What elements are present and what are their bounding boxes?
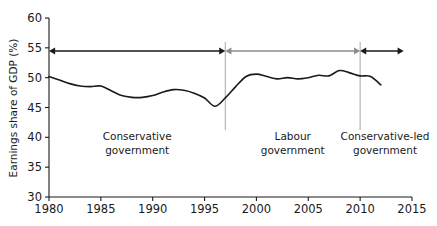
- period-label-line2: government: [353, 144, 417, 156]
- x-tick-label: 2015: [397, 202, 426, 216]
- line-chart: Earnings share of GDP (%) 30354045505560…: [0, 0, 437, 226]
- x-tick-label: 2010: [346, 202, 375, 216]
- period-arrow-head-right: [398, 48, 404, 55]
- y-tick-label: 40: [27, 130, 42, 144]
- x-tick-label: 1995: [190, 202, 219, 216]
- period-arrow-head-left: [225, 48, 231, 55]
- y-tick-label: 55: [27, 41, 42, 55]
- period-arrow-head-right: [219, 48, 225, 55]
- x-axis-ticks: 19801985199019952000200520102015: [34, 197, 426, 216]
- period-label-line1: Labour: [275, 130, 312, 142]
- period-arrow-head-left: [360, 48, 366, 55]
- x-tick-label: 1985: [86, 202, 115, 216]
- period-label-line1: Conservative-led: [341, 130, 430, 142]
- y-tick-label: 60: [27, 11, 42, 25]
- x-tick-label: 2005: [294, 202, 323, 216]
- y-tick-label: 45: [27, 101, 42, 115]
- period-arrows: [49, 48, 404, 55]
- x-tick-label: 1980: [34, 202, 63, 216]
- y-tick-label: 50: [27, 71, 42, 85]
- period-label-line1: Conservative: [103, 130, 172, 142]
- data-line-earnings-share: [49, 70, 381, 106]
- period-arrow-head-left: [49, 48, 55, 55]
- period-label-line2: government: [261, 144, 325, 156]
- y-axis-title: Earnings share of GDP (%): [7, 39, 19, 178]
- x-tick-label: 1990: [138, 202, 167, 216]
- period-labels: ConservativegovernmentLabourgovernmentCo…: [103, 130, 430, 156]
- period-dividers: [225, 42, 360, 130]
- x-tick-label: 2000: [242, 202, 271, 216]
- chart-figure: Earnings share of GDP (%) 30354045505560…: [0, 0, 437, 226]
- y-axis-ticks: 30354045505560: [27, 11, 49, 204]
- period-arrow-head-right: [354, 48, 360, 55]
- period-label-line2: government: [105, 144, 169, 156]
- y-tick-label: 35: [27, 160, 42, 174]
